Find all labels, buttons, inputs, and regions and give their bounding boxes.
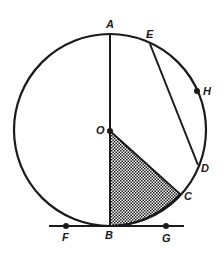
label-O: O <box>96 124 105 136</box>
geometry-diagram: A E H O D C B F G <box>0 0 223 253</box>
label-F: F <box>62 231 69 243</box>
point-O <box>107 128 113 134</box>
label-H: H <box>203 85 212 97</box>
point-G <box>163 223 169 229</box>
label-G: G <box>162 232 171 244</box>
point-F <box>63 223 69 229</box>
label-C: C <box>184 190 193 202</box>
label-E: E <box>146 28 154 40</box>
label-D: D <box>201 162 209 174</box>
shaded-sector-OBC <box>110 131 180 226</box>
chord-ED <box>150 44 198 165</box>
point-H <box>194 88 200 94</box>
label-A: A <box>105 18 114 30</box>
label-B: B <box>105 229 113 241</box>
